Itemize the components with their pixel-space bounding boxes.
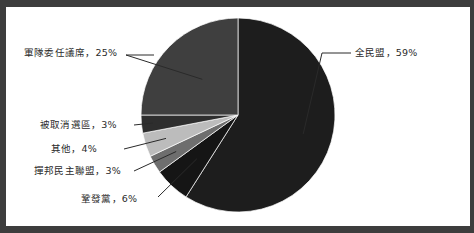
pie-label-usdp: 鞏發黨，6%: [81, 193, 137, 205]
pie-label-shan-nationalities-league: 撣邦民主聯盟，3%: [34, 165, 121, 177]
pie-label-military-appointed-seats: 軍隊委任議席，25%: [24, 47, 117, 59]
chart-plot-area: 軍隊委任議席，25% 全民盟，59% 被取消選區，3% 其他，4% 撣邦民主聯盟…: [6, 7, 470, 226]
pie-slice-group: [141, 18, 335, 212]
figure-frame: 軍隊委任議席，25% 全民盟，59% 被取消選區，3% 其他，4% 撣邦民主聯盟…: [0, 0, 474, 233]
pie-chart: [6, 7, 470, 226]
pie-label-cancelled-constituencies: 被取消選區，3%: [40, 119, 117, 131]
pie-slice: [141, 18, 238, 115]
pie-label-others: 其他，4%: [51, 143, 97, 155]
pie-label-nld: 全民盟，59%: [355, 47, 418, 59]
